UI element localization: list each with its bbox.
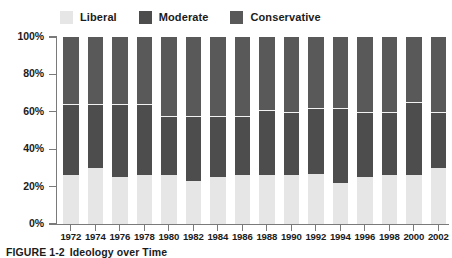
segment-conservative-1988 xyxy=(259,37,275,110)
y-tick-80 xyxy=(49,74,56,75)
segment-moderate-1990 xyxy=(284,112,300,176)
segment-liberal-1976 xyxy=(112,177,128,224)
segment-moderate-1980 xyxy=(161,116,177,176)
plot-area xyxy=(57,37,449,224)
segment-conservative-1996 xyxy=(357,37,373,112)
segment-conservative-1984 xyxy=(210,37,226,116)
segment-moderate-1996 xyxy=(357,112,373,177)
segment-moderate-2002 xyxy=(431,112,447,168)
y-tick-label-80: 80% xyxy=(0,67,44,79)
x-tick-label-1982: 1982 xyxy=(180,231,206,242)
figure-caption: FIGURE 1-2Ideology over Time xyxy=(6,246,167,258)
x-tick-1976 xyxy=(119,224,120,231)
segment-liberal-2002 xyxy=(431,168,447,224)
segment-liberal-1974 xyxy=(88,168,104,224)
x-tick-label-2000: 2000 xyxy=(401,231,427,242)
figure-ideology-over-time: LiberalModerateConservative 0%20%40%60%8… xyxy=(0,0,452,258)
x-tick-1984 xyxy=(217,224,218,231)
segment-liberal-1978 xyxy=(137,175,153,224)
x-tick-label-1984: 1984 xyxy=(205,231,231,242)
y-tick-40 xyxy=(49,149,56,150)
segment-moderate-1994 xyxy=(333,108,349,183)
segment-liberal-1988 xyxy=(259,175,275,224)
bar-1972 xyxy=(63,37,79,224)
bar-1982 xyxy=(186,37,202,224)
segment-moderate-1984 xyxy=(210,116,226,178)
x-tick-1974 xyxy=(95,224,96,231)
bar-1980 xyxy=(161,37,177,224)
segment-conservative-1978 xyxy=(137,37,153,104)
legend-label-conservative: Conservative xyxy=(250,11,320,23)
x-tick-label-1996: 1996 xyxy=(352,231,378,242)
x-tick-1986 xyxy=(242,224,243,231)
segment-conservative-1976 xyxy=(112,37,128,104)
segment-moderate-1992 xyxy=(308,108,324,173)
bar-1986 xyxy=(235,37,251,224)
segment-conservative-1980 xyxy=(161,37,177,116)
bar-1984 xyxy=(210,37,226,224)
y-tick-label-0: 0% xyxy=(0,217,44,229)
segment-liberal-1984 xyxy=(210,177,226,224)
bar-1988 xyxy=(259,37,275,224)
chart-legend: LiberalModerateConservative xyxy=(60,9,343,25)
y-tick-20 xyxy=(49,186,56,187)
x-tick-1990 xyxy=(291,224,292,231)
segment-liberal-1972 xyxy=(63,175,79,224)
x-tick-label-1980: 1980 xyxy=(156,231,182,242)
x-tick-1980 xyxy=(168,224,169,231)
bar-1976 xyxy=(112,37,128,224)
x-tick-1978 xyxy=(144,224,145,231)
legend-entry-liberal: Liberal xyxy=(60,11,117,24)
segment-liberal-1992 xyxy=(308,174,324,224)
segment-liberal-1996 xyxy=(357,177,373,224)
x-tick-label-2002: 2002 xyxy=(425,231,451,242)
x-tick-label-1972: 1972 xyxy=(58,231,84,242)
segment-conservative-1972 xyxy=(63,37,79,104)
segment-moderate-1986 xyxy=(235,116,251,176)
y-tick-100 xyxy=(49,36,56,37)
bar-1992 xyxy=(308,37,324,224)
segment-moderate-1978 xyxy=(137,104,153,175)
bar-1974 xyxy=(88,37,104,224)
bar-2002 xyxy=(431,37,447,224)
x-tick-1982 xyxy=(193,224,194,231)
y-tick-60 xyxy=(49,111,56,112)
segment-conservative-1994 xyxy=(333,37,349,108)
segment-moderate-2000 xyxy=(406,102,422,175)
x-tick-1988 xyxy=(266,224,267,231)
segment-conservative-1998 xyxy=(382,37,398,112)
segment-moderate-1976 xyxy=(112,104,128,177)
segment-conservative-2000 xyxy=(406,37,422,102)
segment-liberal-1982 xyxy=(186,181,202,224)
segment-liberal-1986 xyxy=(235,175,251,224)
segment-conservative-1992 xyxy=(308,37,324,108)
x-tick-label-1986: 1986 xyxy=(229,231,255,242)
segment-conservative-1990 xyxy=(284,37,300,112)
bar-1994 xyxy=(333,37,349,224)
legend-entry-conservative: Conservative xyxy=(230,11,320,24)
y-tick-label-60: 60% xyxy=(0,105,44,117)
bar-1978 xyxy=(137,37,153,224)
y-tick-label-40: 40% xyxy=(0,142,44,154)
x-tick-2002 xyxy=(438,224,439,231)
figure-caption-number: FIGURE 1-2 xyxy=(6,246,65,258)
x-tick-label-1994: 1994 xyxy=(327,231,353,242)
segment-conservative-1986 xyxy=(235,37,251,116)
segment-moderate-1982 xyxy=(186,116,202,181)
segment-liberal-1998 xyxy=(382,175,398,224)
segment-liberal-1994 xyxy=(333,183,349,224)
y-tick-label-100: 100% xyxy=(0,30,44,42)
x-tick-1994 xyxy=(340,224,341,231)
x-tick-label-1988: 1988 xyxy=(254,231,280,242)
segment-conservative-2002 xyxy=(431,37,447,112)
legend-label-moderate: Moderate xyxy=(159,11,209,23)
legend-label-liberal: Liberal xyxy=(80,11,117,23)
x-tick-1998 xyxy=(389,224,390,231)
x-tick-label-1974: 1974 xyxy=(82,231,108,242)
x-tick-label-1976: 1976 xyxy=(107,231,133,242)
segment-conservative-1982 xyxy=(186,37,202,116)
x-tick-label-1992: 1992 xyxy=(303,231,329,242)
bar-1998 xyxy=(382,37,398,224)
segment-moderate-1974 xyxy=(88,104,104,168)
bar-1996 xyxy=(357,37,373,224)
